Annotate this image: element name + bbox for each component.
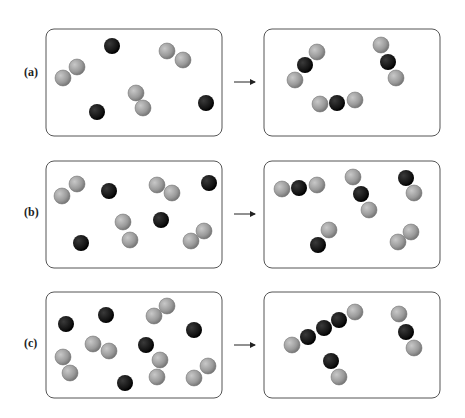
light-atom-b-after-4	[406, 185, 422, 201]
light-atom-c-before-7	[149, 369, 165, 385]
dark-atom-a-before-1	[89, 104, 105, 120]
light-atom-b-after-2	[345, 169, 361, 185]
light-atom-b-before-5	[122, 232, 138, 248]
row-label-a: (a)	[24, 65, 38, 79]
dark-atom-a-after-0	[297, 57, 313, 73]
dark-atom-b-before-1	[201, 175, 217, 191]
dark-atom-c-before-2	[186, 322, 202, 338]
light-atom-a-after-5	[347, 92, 363, 108]
diagram-canvas: (a) (b) (c)	[0, 0, 465, 418]
dark-atom-c-after-4	[323, 353, 339, 369]
light-atom-c-before-8	[186, 370, 202, 386]
light-atom-a-before-3	[175, 52, 191, 68]
light-atom-c-after-3	[406, 340, 422, 356]
dark-atom-c-before-3	[138, 337, 154, 353]
dark-atom-b-before-3	[73, 235, 89, 251]
light-atom-a-after-1	[287, 72, 303, 88]
row-label-b: (b)	[24, 205, 39, 219]
dark-atom-a-before-2	[198, 95, 214, 111]
light-atom-c-before-1	[159, 298, 175, 314]
light-atom-b-after-5	[321, 222, 337, 238]
light-atom-b-before-3	[164, 185, 180, 201]
light-atom-c-after-1	[347, 304, 363, 320]
light-atom-b-before-4	[115, 214, 131, 230]
dark-atom-a-after-2	[329, 95, 345, 111]
light-atom-c-before-4	[55, 349, 71, 365]
dark-atom-c-before-0	[58, 316, 74, 332]
light-atom-b-after-0	[274, 181, 290, 197]
light-atom-c-before-0	[146, 308, 162, 324]
light-atom-c-before-3	[101, 343, 117, 359]
light-atom-a-before-4	[128, 85, 144, 101]
light-atom-a-before-2	[159, 43, 175, 59]
dark-atom-c-before-1	[98, 307, 114, 323]
dark-atom-a-before-0	[104, 38, 120, 54]
light-atom-c-after-4	[331, 369, 347, 385]
dark-atom-c-after-2	[331, 312, 347, 328]
dark-atom-c-after-1	[316, 320, 332, 336]
light-atom-a-after-2	[373, 37, 389, 53]
dark-atom-b-after-1	[353, 186, 369, 202]
dark-atom-b-after-3	[310, 237, 326, 253]
dark-atom-c-after-3	[398, 324, 414, 340]
light-atom-a-after-3	[388, 70, 404, 86]
box-b-before	[46, 161, 222, 268]
light-atom-a-before-1	[55, 70, 71, 86]
dark-atom-c-before-4	[117, 375, 133, 391]
light-atom-c-after-2	[391, 306, 407, 322]
light-atom-c-after-0	[284, 337, 300, 353]
light-atom-b-before-0	[69, 176, 85, 192]
light-atom-b-before-6	[183, 233, 199, 249]
light-atom-c-before-9	[200, 358, 216, 374]
dark-atom-b-before-2	[153, 212, 169, 228]
box-a-before	[46, 29, 222, 136]
light-atom-c-before-6	[152, 352, 168, 368]
light-atom-b-before-2	[149, 177, 165, 193]
light-atom-b-after-6	[390, 234, 406, 250]
dark-atom-b-after-0	[291, 180, 307, 196]
light-atom-c-before-2	[85, 336, 101, 352]
row-label-c: (c)	[24, 336, 37, 350]
light-atom-a-before-5	[135, 100, 151, 116]
light-atom-b-after-1	[309, 177, 325, 193]
dark-atom-a-after-1	[380, 54, 396, 70]
light-atom-b-after-3	[361, 202, 377, 218]
light-atom-b-before-1	[54, 188, 70, 204]
light-atom-b-after-7	[403, 224, 419, 240]
light-atom-a-after-4	[312, 96, 328, 112]
dark-atom-b-after-2	[398, 170, 414, 186]
dark-atom-c-after-0	[300, 329, 316, 345]
dark-atom-b-before-0	[101, 183, 117, 199]
light-atom-a-after-0	[309, 44, 325, 60]
light-atom-a-before-0	[69, 59, 85, 75]
light-atom-b-before-7	[196, 223, 212, 239]
light-atom-c-before-5	[62, 365, 78, 381]
